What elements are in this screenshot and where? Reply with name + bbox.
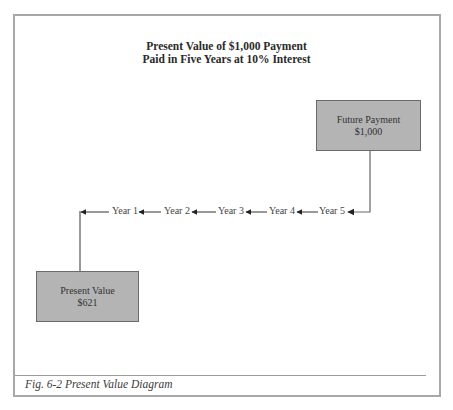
future-payment-box: Future Payment $1,000 bbox=[316, 100, 421, 151]
year-1-label: Year 1 bbox=[112, 205, 138, 217]
present-value-box: Present Value $621 bbox=[36, 271, 139, 322]
figure-caption: Fig. 6-2 Present Value Diagram bbox=[25, 378, 172, 391]
future-connector bbox=[348, 151, 370, 212]
future-payment-label: Future Payment bbox=[337, 114, 401, 126]
year-4-label: Year 4 bbox=[269, 205, 295, 217]
year-3-label: Year 3 bbox=[218, 205, 244, 217]
present-value-value: $621 bbox=[78, 297, 98, 309]
caption-divider bbox=[15, 375, 426, 376]
present-value-label: Present Value bbox=[60, 285, 115, 297]
year-5-label: Year 5 bbox=[319, 205, 345, 217]
year-2-label: Year 2 bbox=[164, 205, 190, 217]
future-payment-value: $1,000 bbox=[355, 126, 383, 138]
